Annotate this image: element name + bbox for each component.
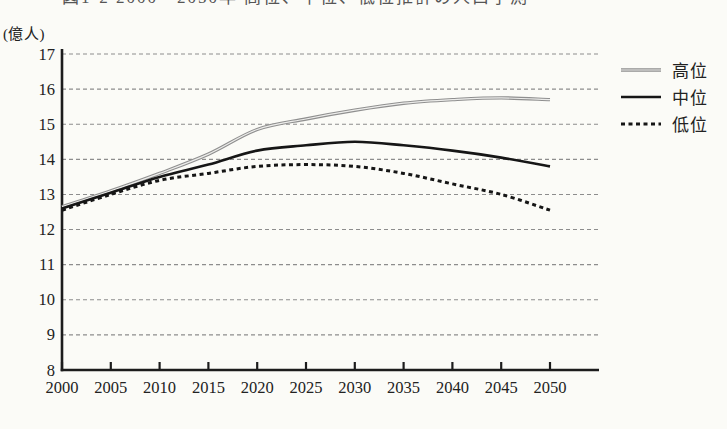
y-tick-label: 16 <box>39 80 56 99</box>
x-tick-label: 2040 <box>436 378 469 397</box>
y-tick-label: 10 <box>39 290 56 309</box>
x-tick-label: 2050 <box>534 378 567 397</box>
x-tick-label: 2045 <box>485 378 518 397</box>
x-tick-label: 2010 <box>143 378 176 397</box>
y-tick-label: 13 <box>39 185 56 204</box>
y-tick-label: 9 <box>47 325 55 344</box>
legend: 高位 中位 低位 <box>620 56 725 137</box>
x-tick-label: 2005 <box>94 378 127 397</box>
x-tick-label: 2000 <box>46 378 79 397</box>
x-tick-label: 2030 <box>338 378 371 397</box>
y-tick-label: 8 <box>47 361 55 380</box>
y-tick-label: 14 <box>39 150 56 169</box>
y-tick-label: 17 <box>39 45 56 64</box>
legend-line-swatch-mid <box>620 92 662 102</box>
legend-line-swatch-low <box>620 119 662 129</box>
legend-item-mid: 中位 <box>620 83 725 110</box>
series-line-mid <box>62 142 550 209</box>
legend-label-high: 高位 <box>672 57 708 82</box>
figure-page: 図1-2 2000〜2050年 高位、中位、低位推計の人口予測 (億人) 891… <box>0 0 727 429</box>
x-tick-label: 2025 <box>290 378 323 397</box>
y-tick-label: 15 <box>39 115 56 134</box>
x-tick-label: 2015 <box>192 378 225 397</box>
series-line-low <box>62 165 550 211</box>
line-chart: 8910111213141516172000200520102015202020… <box>0 0 727 429</box>
legend-label-mid: 中位 <box>672 84 708 109</box>
legend-label-low: 低位 <box>672 111 708 136</box>
legend-line-swatch-high <box>620 65 662 75</box>
y-tick-label: 11 <box>39 255 55 274</box>
x-tick-label: 2035 <box>387 378 420 397</box>
x-tick-label: 2020 <box>241 378 274 397</box>
legend-item-low: 低位 <box>620 110 725 137</box>
y-tick-label: 12 <box>39 220 56 239</box>
legend-item-high: 高位 <box>620 56 725 83</box>
